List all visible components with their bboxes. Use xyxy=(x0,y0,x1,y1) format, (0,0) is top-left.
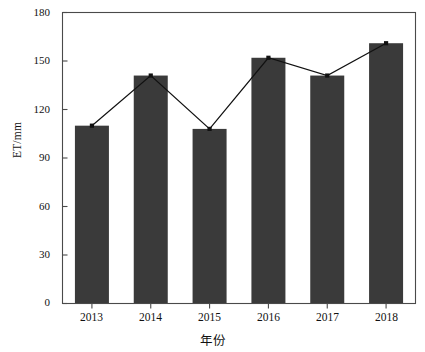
bars-group xyxy=(75,43,403,303)
data-point-2013 xyxy=(90,124,94,128)
bar-2016 xyxy=(251,58,285,304)
chart-container: ET/mm 年份 180 150 120 90 60 30 0 2013 201… xyxy=(0,0,425,352)
bar-2017 xyxy=(310,76,344,304)
bar-2015 xyxy=(193,129,227,304)
data-point-2017 xyxy=(325,73,329,77)
bar-2013 xyxy=(75,126,109,304)
plot-area xyxy=(0,0,425,352)
data-point-2016 xyxy=(266,56,270,60)
data-point-2018 xyxy=(384,41,388,45)
bar-2018 xyxy=(369,43,403,303)
data-point-2015 xyxy=(207,127,211,131)
data-point-2014 xyxy=(149,73,153,77)
bar-2014 xyxy=(134,76,168,304)
